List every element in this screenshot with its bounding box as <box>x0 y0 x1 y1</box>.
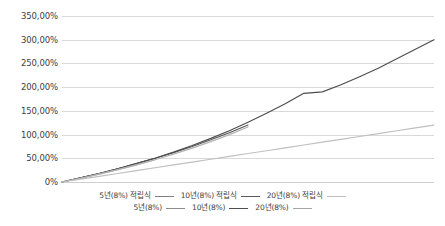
line-chart: 350,00%300,00%250,00%200,00%150,00%100,0… <box>0 0 445 226</box>
y-tick-label: 100,00% <box>21 130 58 140</box>
series-line <box>62 125 434 182</box>
legend-swatch-line-icon <box>241 196 260 197</box>
legend-swatch-line-icon <box>229 208 248 209</box>
y-axis: 350,00%300,00%250,00%200,00%150,00%100,0… <box>0 0 58 182</box>
plot-area <box>62 16 434 182</box>
series-line <box>62 40 434 182</box>
legend-item-label: 5년(8%) <box>133 202 162 214</box>
series-layer <box>62 16 434 182</box>
series-line <box>62 125 248 182</box>
legend-swatch-line-icon <box>155 196 174 197</box>
legend-item-label: 20년(8%) <box>255 202 288 214</box>
y-tick-label: 350,00% <box>21 11 58 21</box>
legend-item[interactable]: 10년(8%) 적립식 <box>181 190 260 202</box>
y-tick-label: 50,00% <box>26 153 58 163</box>
y-tick-label: 250,00% <box>21 58 58 68</box>
legend-item[interactable]: 10년(8%) <box>192 202 248 214</box>
y-tick-label: 0% <box>45 177 58 187</box>
legend-swatch-line-icon <box>327 196 346 197</box>
legend-swatch-line-icon <box>293 208 312 209</box>
legend-item-label: 20년(8%) 적립식 <box>267 190 323 202</box>
legend-row: 5년(8%) 적립식10년(8%) 적립식20년(8%) 적립식 <box>0 190 445 202</box>
legend-item-label: 10년(8%) 적립식 <box>181 190 237 202</box>
y-tick-label: 200,00% <box>21 82 58 92</box>
legend-item-label: 10년(8%) <box>192 202 225 214</box>
series-line <box>62 127 248 182</box>
legend-item[interactable]: 5년(8%) <box>133 202 185 214</box>
legend-swatch-line-icon <box>166 208 185 209</box>
legend-item[interactable]: 5년(8%) 적립식 <box>99 190 173 202</box>
y-tick-label: 300,00% <box>21 35 58 45</box>
legend-item[interactable]: 20년(8%) 적립식 <box>267 190 346 202</box>
chart-legend: 5년(8%) 적립식10년(8%) 적립식20년(8%) 적립식5년(8%)10… <box>0 190 445 214</box>
legend-item[interactable]: 20년(8%) <box>255 202 311 214</box>
legend-item-label: 5년(8%) 적립식 <box>99 190 150 202</box>
y-tick-label: 150,00% <box>21 106 58 116</box>
legend-row: 5년(8%)10년(8%)20년(8%) <box>0 202 445 214</box>
gridline-0 <box>62 182 434 183</box>
